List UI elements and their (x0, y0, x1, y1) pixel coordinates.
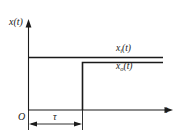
curve-label-output: xo(t) (116, 62, 132, 72)
origin-label: O (18, 112, 25, 122)
y-axis-label: x(t) (9, 17, 23, 27)
curve-label-output-subscript: o (120, 65, 123, 72)
plot-canvas (0, 0, 178, 140)
curve-label-input: xi(t) (116, 44, 131, 54)
tau-arrowhead-left (29, 121, 37, 126)
curve-label-input-tail: (t) (122, 43, 131, 53)
curve-label-input-subscript: i (120, 47, 122, 54)
y-axis (26, 19, 32, 111)
tau-arrowhead-right (74, 121, 82, 126)
curve-label-output-tail: (t) (123, 61, 132, 71)
x-axis-label: t (165, 105, 168, 115)
y-axis-arrowhead (26, 19, 32, 28)
step-response-figure: x(t) t O xi(t) xo(t) τ (0, 0, 178, 140)
x-axis (29, 107, 174, 113)
tau-label: τ (53, 112, 57, 122)
